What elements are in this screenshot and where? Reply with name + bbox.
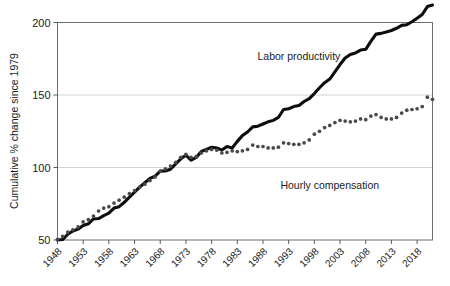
hourly-compensation-point: [410, 108, 414, 112]
hourly-compensation-point: [76, 225, 80, 229]
hourly-compensation-point: [184, 153, 188, 157]
hourly-compensation-point: [246, 148, 250, 152]
hourly-compensation-point: [102, 206, 106, 210]
hourly-compensation-point: [174, 161, 178, 165]
hourly-compensation-point: [86, 218, 90, 222]
hourly-compensation-point: [158, 169, 162, 173]
hourly-compensation-point: [318, 129, 322, 133]
hourly-compensation-point: [107, 205, 111, 209]
hourly-compensation-point: [369, 114, 373, 118]
hourly-compensation-point: [354, 119, 358, 123]
y-tick-label-100: 100: [32, 162, 50, 174]
hourly-compensation-point: [61, 235, 65, 239]
hourly-compensation-point: [405, 108, 409, 112]
y-axis-label: Cumulative % change since 1979: [8, 53, 20, 209]
chart-container: 50100150200 1948195319581963196819731978…: [0, 0, 450, 286]
hourly-compensation-point: [189, 156, 193, 160]
hourly-compensation-point: [313, 132, 317, 136]
hourly-compensation-point: [415, 107, 419, 111]
hourly-compensation-point: [420, 105, 424, 109]
y-tick-label-50: 50: [38, 234, 50, 246]
hourly-compensation-point: [323, 126, 327, 130]
cumulative-percent-change-chart: 50100150200 1948195319581963196819731978…: [0, 0, 450, 286]
chart-background: [0, 0, 450, 286]
hourly-compensation-point: [364, 118, 368, 122]
hourly-compensation-point: [133, 189, 137, 193]
hourly-compensation-point: [338, 119, 342, 123]
hourly-compensation-point: [235, 150, 239, 154]
hourly-compensation-point: [225, 150, 229, 154]
y-tick-label-150: 150: [32, 89, 50, 101]
hourly-compensation-label: Hourly compensation: [280, 179, 379, 191]
hourly-compensation-point: [179, 156, 183, 160]
hourly-compensation-point: [210, 148, 214, 152]
hourly-compensation-point: [92, 214, 96, 218]
hourly-compensation-point: [271, 146, 275, 150]
hourly-compensation-point: [117, 198, 121, 202]
hourly-compensation-point: [56, 237, 60, 241]
hourly-compensation-point: [205, 149, 209, 153]
hourly-compensation-point: [128, 192, 132, 196]
hourly-compensation-point: [122, 195, 126, 199]
labor-productivity-label: Labor productivity: [257, 50, 341, 62]
hourly-compensation-point: [307, 138, 311, 142]
hourly-compensation-point: [390, 117, 394, 121]
hourly-compensation-point: [138, 185, 142, 189]
hourly-compensation-point: [297, 142, 301, 146]
hourly-compensation-point: [97, 209, 101, 213]
hourly-compensation-point: [292, 142, 296, 146]
hourly-compensation-point: [164, 167, 168, 171]
hourly-compensation-point: [241, 149, 245, 153]
hourly-compensation-point: [426, 95, 430, 99]
hourly-compensation-point: [343, 119, 347, 123]
hourly-compensation-point: [194, 155, 198, 159]
hourly-compensation-point: [266, 146, 270, 150]
hourly-compensation-point: [400, 111, 404, 115]
hourly-compensation-point: [302, 141, 306, 145]
hourly-compensation-point: [287, 142, 291, 146]
hourly-compensation-point: [384, 117, 388, 121]
hourly-compensation-point: [359, 117, 363, 121]
hourly-compensation-point: [256, 145, 260, 149]
hourly-compensation-point: [348, 120, 352, 124]
hourly-compensation-point: [153, 175, 157, 179]
hourly-compensation-point: [379, 116, 383, 120]
y-tick-label-200: 200: [32, 17, 50, 29]
hourly-compensation-point: [81, 220, 85, 224]
hourly-compensation-point: [251, 143, 255, 147]
hourly-compensation-point: [328, 124, 332, 128]
hourly-compensation-point: [220, 151, 224, 155]
hourly-compensation-point: [148, 179, 152, 183]
hourly-compensation-point: [143, 182, 147, 186]
hourly-compensation-point: [277, 145, 281, 149]
hourly-compensation-point: [395, 116, 399, 120]
hourly-compensation-point: [215, 148, 219, 152]
hourly-compensation-point: [333, 121, 337, 125]
hourly-compensation-point: [112, 201, 116, 205]
hourly-compensation-point: [261, 145, 265, 149]
hourly-compensation-point: [199, 151, 203, 155]
hourly-compensation-point: [230, 149, 234, 153]
hourly-compensation-point: [431, 98, 435, 102]
hourly-compensation-point: [71, 228, 75, 232]
hourly-compensation-point: [66, 230, 70, 234]
hourly-compensation-point: [374, 113, 378, 117]
hourly-compensation-point: [169, 164, 173, 168]
hourly-compensation-point: [282, 141, 286, 145]
